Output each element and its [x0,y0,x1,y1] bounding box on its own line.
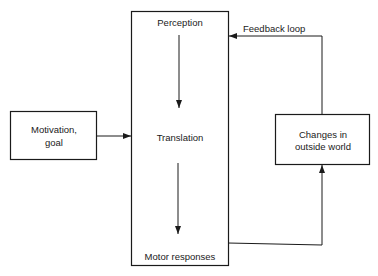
input-box-line1: Motivation, [10,124,98,136]
motor-to-output-arrow [228,165,322,245]
translation-label: Translation [131,132,229,144]
output-box-line2: outside world [275,141,371,153]
motor-responses-label: Motor responses [131,251,229,263]
feedback-loop-arrow [229,36,322,114]
input-box-line2: goal [10,137,98,149]
output-box-line1: Changes in [275,129,371,141]
perception-label: Perception [131,17,229,29]
feedback-loop-label: Feedback loop [243,23,305,35]
